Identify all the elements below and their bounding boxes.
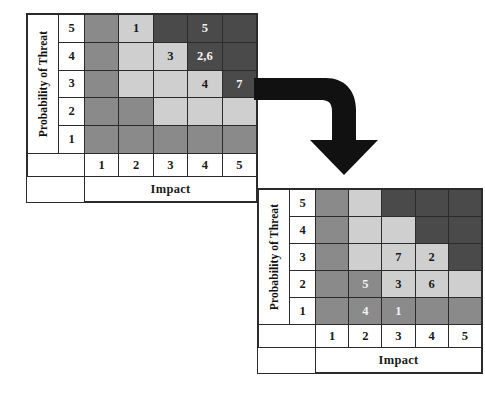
- x-tick: 1: [85, 154, 119, 177]
- matrix-cell[interactable]: [415, 298, 448, 325]
- risk-grid-before-body: Probability of Threat 5 1 5 4 3 2,6 3: [28, 15, 257, 202]
- matrix-cell[interactable]: [188, 126, 222, 154]
- x-tick: 1: [316, 325, 349, 348]
- risk-matrix-after: Probability of Threat 5 4 3: [257, 188, 483, 374]
- matrix-cell[interactable]: [85, 70, 119, 98]
- matrix-cell[interactable]: [316, 190, 349, 217]
- matrix-cell[interactable]: [448, 190, 481, 217]
- x-title-row: Impact: [259, 348, 482, 373]
- matrix-row: 1: [28, 126, 257, 154]
- x-axis-label: Impact: [316, 348, 482, 373]
- y-tick: 1: [59, 126, 85, 154]
- matrix-cell[interactable]: [316, 298, 349, 325]
- y-tick: 3: [59, 70, 85, 98]
- y-tick: 2: [59, 98, 85, 126]
- y-tick: 2: [290, 271, 316, 298]
- matrix-cell[interactable]: [448, 271, 481, 298]
- matrix-cell[interactable]: [448, 217, 481, 244]
- matrix-cell[interactable]: 1: [382, 298, 415, 325]
- matrix-row: 3 4 7: [28, 70, 257, 98]
- matrix-cell[interactable]: [188, 98, 222, 126]
- matrix-row: 4 3 2,6: [28, 42, 257, 70]
- matrix-row: 1 4 1: [259, 298, 482, 325]
- x-title-row: Impact: [28, 177, 257, 202]
- matrix-cell[interactable]: [448, 298, 481, 325]
- matrix-cell[interactable]: [316, 271, 349, 298]
- matrix-cell[interactable]: [382, 217, 415, 244]
- risk-grid-before: Probability of Threat 5 1 5 4 3 2,6 3: [27, 14, 257, 202]
- x-tick: 5: [448, 325, 481, 348]
- x-tick: 2: [119, 154, 153, 177]
- arrow-shape: [254, 78, 378, 175]
- matrix-cell[interactable]: [85, 126, 119, 154]
- matrix-cell[interactable]: 5: [188, 15, 222, 43]
- y-tick: 4: [290, 217, 316, 244]
- elbow-arrow-down-icon: [252, 72, 384, 177]
- x-axis-label: Impact: [85, 177, 257, 202]
- matrix-row: 4: [259, 217, 482, 244]
- matrix-cell[interactable]: 4: [188, 70, 222, 98]
- matrix-cell[interactable]: [85, 98, 119, 126]
- y-tick: 4: [59, 42, 85, 70]
- matrix-row: 2 5 3 6: [259, 271, 482, 298]
- matrix-row: Probability of Threat 5 1 5: [28, 15, 257, 43]
- matrix-cell[interactable]: [153, 70, 187, 98]
- matrix-cell[interactable]: [349, 244, 382, 271]
- matrix-cell[interactable]: [349, 217, 382, 244]
- matrix-cell[interactable]: 2: [415, 244, 448, 271]
- matrix-cell[interactable]: [222, 15, 256, 43]
- axis-title-blank: [28, 177, 85, 202]
- risk-grid-after-body: Probability of Threat 5 4 3: [259, 190, 482, 373]
- matrix-cell[interactable]: [415, 190, 448, 217]
- x-tick-row: 1 2 3 4 5: [28, 154, 257, 177]
- y-tick: 5: [290, 190, 316, 217]
- axis-corner-blank: [28, 154, 85, 177]
- risk-grid-after: Probability of Threat 5 4 3: [258, 189, 482, 373]
- matrix-row: 2: [28, 98, 257, 126]
- matrix-cell[interactable]: [119, 70, 153, 98]
- x-tick-row: 1 2 3 4 5: [259, 325, 482, 348]
- matrix-cell[interactable]: [349, 190, 382, 217]
- matrix-row: Probability of Threat 5: [259, 190, 482, 217]
- x-tick: 3: [153, 154, 187, 177]
- x-tick: 4: [188, 154, 222, 177]
- y-axis-label-cell: Probability of Threat: [28, 15, 59, 154]
- matrix-cell[interactable]: [222, 42, 256, 70]
- matrix-cell[interactable]: [153, 98, 187, 126]
- axis-corner-blank: [259, 325, 316, 348]
- axis-title-blank: [259, 348, 316, 373]
- matrix-cell[interactable]: [316, 217, 349, 244]
- y-axis-label: Probability of Threat: [268, 204, 280, 310]
- y-tick: 3: [290, 244, 316, 271]
- matrix-cell[interactable]: [119, 42, 153, 70]
- matrix-cell[interactable]: [153, 126, 187, 154]
- matrix-cell[interactable]: [85, 42, 119, 70]
- matrix-cell[interactable]: 3: [153, 42, 187, 70]
- x-tick: 2: [349, 325, 382, 348]
- matrix-cell[interactable]: 7: [382, 244, 415, 271]
- transform-arrow: [252, 72, 384, 177]
- y-axis-label: Probability of Threat: [37, 31, 49, 137]
- x-tick: 3: [382, 325, 415, 348]
- y-tick: 1: [290, 298, 316, 325]
- matrix-cell[interactable]: [316, 244, 349, 271]
- matrix-cell[interactable]: [119, 98, 153, 126]
- matrix-cell[interactable]: 4: [349, 298, 382, 325]
- matrix-cell[interactable]: [448, 244, 481, 271]
- matrix-cell[interactable]: 5: [349, 271, 382, 298]
- y-axis-label-cell: Probability of Threat: [259, 190, 290, 325]
- matrix-cell[interactable]: [382, 190, 415, 217]
- x-tick: 4: [415, 325, 448, 348]
- y-tick: 5: [59, 15, 85, 43]
- matrix-cell[interactable]: [85, 15, 119, 43]
- matrix-cell[interactable]: 6: [415, 271, 448, 298]
- matrix-cell[interactable]: 2,6: [188, 42, 222, 70]
- matrix-cell[interactable]: [153, 15, 187, 43]
- matrix-cell[interactable]: [415, 217, 448, 244]
- matrix-cell[interactable]: [119, 126, 153, 154]
- risk-matrix-before: Probability of Threat 5 1 5 4 3 2,6 3: [26, 13, 258, 203]
- matrix-cell[interactable]: 3: [382, 271, 415, 298]
- matrix-cell[interactable]: 1: [119, 15, 153, 43]
- matrix-row: 3 7 2: [259, 244, 482, 271]
